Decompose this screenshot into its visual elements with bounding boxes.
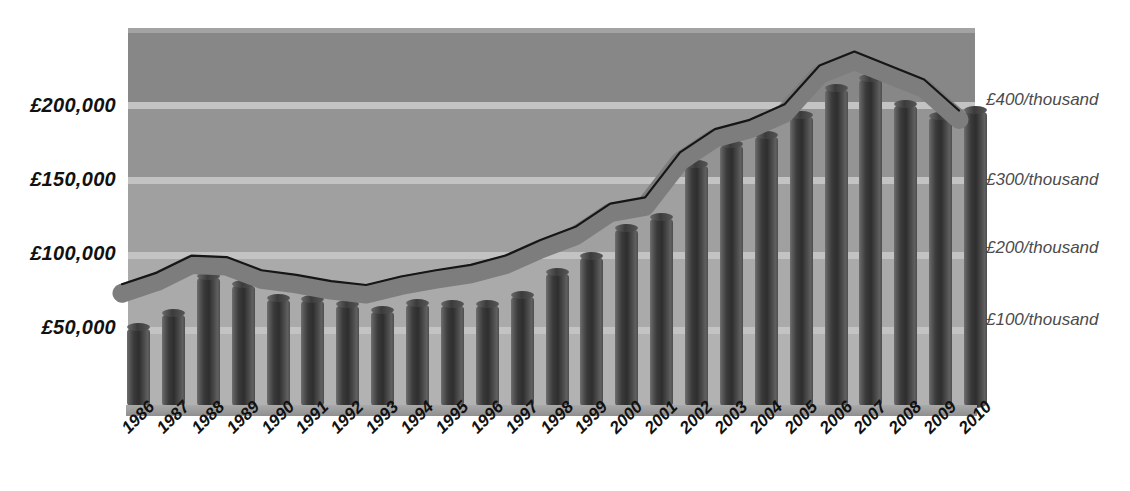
bar-1988 (197, 276, 220, 408)
gridline-200k (128, 102, 975, 109)
bar-1986 (127, 327, 150, 408)
bar-1991 (301, 299, 324, 408)
left-axis-tick-2: £100,000 (30, 242, 116, 265)
gridline-150k (128, 177, 975, 184)
bar-1989 (232, 284, 255, 408)
bar-1987 (162, 313, 185, 408)
right-axis-tick-1: £300/thousand (986, 170, 1099, 190)
bar-1995 (441, 304, 464, 408)
bar-1993 (371, 310, 394, 408)
bar-1996 (476, 304, 499, 408)
bar-1998 (546, 272, 569, 408)
bar-2002 (685, 164, 708, 408)
bar-2009 (929, 116, 952, 408)
bar-1994 (406, 303, 429, 408)
right-axis-tick-3: £100/thousand (986, 310, 1099, 330)
right-axis-tick-0: £400/thousand (986, 90, 1099, 110)
right-axis-tick-2: £200/thousand (986, 238, 1099, 258)
bar-2008 (894, 104, 917, 408)
left-axis-tick-1: £150,000 (30, 168, 116, 191)
bar-2000 (615, 228, 638, 408)
background-band-4 (128, 184, 975, 252)
bar-1999 (580, 256, 603, 408)
bar-1992 (336, 304, 359, 408)
bar-2010 (964, 110, 987, 408)
left-axis-tick-0: £200,000 (30, 94, 116, 117)
bar-2003 (720, 144, 743, 408)
chart-canvas: £200,000£150,000£100,000£50,000 £400/tho… (0, 0, 1130, 491)
bar-1990 (267, 298, 290, 408)
left-axis-tick-3: £50,000 (42, 316, 116, 339)
bar-1997 (511, 295, 534, 408)
bar-2004 (755, 135, 778, 408)
bar-2001 (650, 217, 673, 408)
gridline-100k (128, 252, 975, 259)
bar-2006 (825, 88, 848, 408)
bar-2007 (859, 78, 882, 408)
background-band-3 (128, 109, 975, 177)
bar-2005 (790, 115, 813, 408)
background-band-2 (128, 33, 975, 105)
